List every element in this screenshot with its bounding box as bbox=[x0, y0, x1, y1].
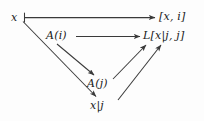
node-x-i: [x, i] bbox=[159, 11, 186, 22]
commutative-diagram: x|j : long diagonal down-right --> L[x|j… bbox=[0, 0, 204, 121]
edge-aj-to-lxjj bbox=[113, 45, 146, 79]
node-x: x bbox=[11, 12, 17, 23]
edge-line bbox=[118, 45, 161, 100]
edge-line bbox=[113, 45, 146, 79]
edge-line bbox=[57, 44, 94, 75]
node-a-i: A(i) bbox=[46, 30, 67, 41]
node-a-j: A(j) bbox=[87, 78, 108, 89]
node-l-xj-j: L[x|j, j] bbox=[143, 30, 184, 41]
edge-x-to-xi bbox=[25, 13, 156, 22]
node-x-restricted-j: x|j bbox=[90, 100, 104, 111]
edge-xbarj-to-lxjj bbox=[118, 45, 161, 100]
edge-ai-to-aj bbox=[57, 44, 94, 75]
